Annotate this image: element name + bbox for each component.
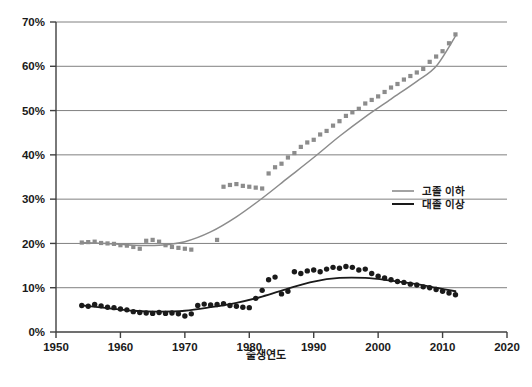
y-tick-label-60: 60% <box>22 60 45 72</box>
data-point <box>80 240 84 244</box>
data-point <box>228 183 232 187</box>
data-point <box>259 288 264 293</box>
data-point <box>408 74 412 78</box>
data-point <box>234 304 239 309</box>
data-point <box>240 305 245 310</box>
data-point <box>215 238 219 242</box>
data-point <box>189 311 194 316</box>
data-point <box>201 301 206 306</box>
data-point <box>131 245 135 249</box>
data-point <box>292 151 296 155</box>
data-point <box>299 145 303 149</box>
data-point <box>421 67 425 71</box>
y-tick-label-50: 50% <box>22 105 45 117</box>
y-tick-label-40: 40% <box>22 149 45 161</box>
data-point <box>440 289 445 294</box>
data-point <box>363 101 367 105</box>
data-point <box>401 280 406 285</box>
data-point <box>169 310 174 315</box>
data-point <box>227 303 232 308</box>
data-point <box>357 107 361 111</box>
data-point <box>311 267 316 272</box>
data-point <box>447 41 451 45</box>
data-point <box>99 241 103 245</box>
data-point <box>395 279 400 284</box>
data-point <box>286 155 290 159</box>
data-point <box>427 285 432 290</box>
data-point <box>446 290 451 295</box>
y-tick-label-70: 70% <box>22 16 45 28</box>
data-point <box>292 269 297 274</box>
data-point <box>163 311 168 316</box>
data-point <box>112 242 116 246</box>
x-tick-label-1960: 1960 <box>108 341 134 353</box>
data-point <box>170 245 174 249</box>
data-point <box>376 94 380 98</box>
data-point <box>433 287 438 292</box>
data-point <box>247 305 252 310</box>
data-point <box>337 119 341 123</box>
x-tick-label-1970: 1970 <box>172 341 198 353</box>
data-point <box>131 309 136 314</box>
y-tick-label-10: 10% <box>22 282 45 294</box>
data-point <box>86 304 91 309</box>
data-point <box>98 303 103 308</box>
y-tick-label-0: 0% <box>28 326 45 338</box>
data-point <box>267 171 271 175</box>
data-point <box>414 282 419 287</box>
data-point <box>176 246 180 250</box>
data-point <box>92 302 97 307</box>
data-point <box>343 264 348 269</box>
data-point <box>330 265 335 270</box>
data-point <box>93 240 97 244</box>
data-point <box>260 186 264 190</box>
data-point <box>305 268 310 273</box>
data-point <box>156 310 161 315</box>
x-axis-title: 출생연도 <box>246 348 286 361</box>
data-point <box>144 239 148 243</box>
data-point <box>350 265 355 270</box>
data-point <box>151 238 155 242</box>
data-point <box>221 185 225 189</box>
data-point <box>79 303 84 308</box>
data-point <box>421 284 426 289</box>
education-trend-chart: 0%10%20%30%40%50%60%70% 1950196019701980… <box>0 0 532 387</box>
data-point <box>389 85 393 89</box>
data-point <box>402 77 406 81</box>
data-point <box>137 310 142 315</box>
data-point <box>241 184 245 188</box>
data-point <box>111 305 116 310</box>
data-point <box>279 162 283 166</box>
data-point <box>440 49 444 53</box>
data-point <box>125 244 129 248</box>
data-point <box>453 32 457 36</box>
data-point <box>324 266 329 271</box>
data-point <box>182 313 187 318</box>
data-point <box>266 277 271 282</box>
data-point <box>105 241 109 245</box>
data-point <box>272 274 277 279</box>
data-point <box>144 310 149 315</box>
data-point <box>375 274 380 279</box>
data-point <box>221 301 226 306</box>
data-point <box>312 138 316 142</box>
data-point <box>453 292 458 297</box>
data-point <box>388 277 393 282</box>
data-point <box>234 182 238 186</box>
legend-label-highschool: 고졸 이하 <box>422 185 465 197</box>
data-point <box>189 248 193 252</box>
data-point <box>428 60 432 64</box>
y-tick-label-30: 30% <box>22 193 45 205</box>
data-point <box>415 70 419 74</box>
data-point <box>382 90 386 94</box>
data-point <box>118 243 122 247</box>
data-point <box>369 271 374 276</box>
data-point <box>157 240 161 244</box>
data-point <box>408 281 413 286</box>
data-point <box>298 271 303 276</box>
data-point <box>344 114 348 118</box>
data-point <box>356 267 361 272</box>
data-point <box>363 266 368 271</box>
data-point <box>331 124 335 128</box>
data-point <box>382 275 387 280</box>
